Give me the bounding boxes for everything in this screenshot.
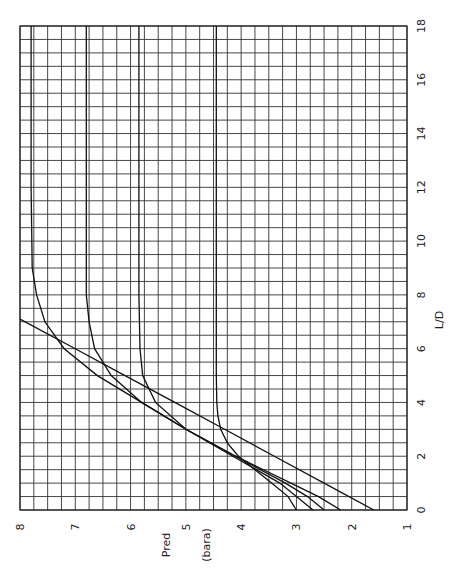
x-tick-label: 4	[415, 399, 428, 406]
y-tick-label: 3	[290, 524, 303, 531]
x-axis-label: L/D	[433, 311, 446, 329]
y-tick-label: 2	[346, 524, 359, 531]
y-axis-label-line2: (bara)	[200, 528, 213, 562]
y-tick-label: 6	[125, 524, 138, 531]
x-tick-label: 14	[415, 127, 428, 141]
x-tick-label: 6	[415, 345, 428, 352]
x-tick-label: 8	[415, 291, 428, 298]
y-tick-label: 5	[180, 524, 193, 531]
curve-0	[20, 319, 374, 510]
x-tick-label: 10	[415, 234, 428, 248]
y-axis-label-line1: Pred	[160, 533, 173, 557]
x-tick-label: 18	[415, 19, 428, 33]
y-tick-label: 8	[14, 524, 27, 531]
x-tick-label: 12	[415, 180, 428, 194]
x-tick-label: 16	[415, 73, 428, 87]
x-tick-label: 0	[415, 507, 428, 514]
chart: 02468101214161812345678 L/D Pred (bara)	[0, 0, 461, 577]
y-tick-label: 1	[401, 524, 414, 531]
chart-grid	[20, 26, 407, 510]
y-tick-label: 4	[235, 524, 248, 531]
x-tick-label: 2	[415, 453, 428, 460]
y-tick-label: 7	[69, 524, 82, 531]
